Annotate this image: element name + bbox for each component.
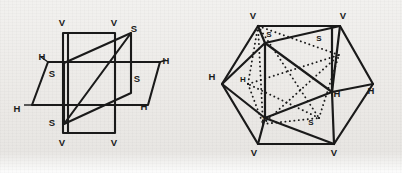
label-v-bottom-right: V bbox=[331, 147, 338, 158]
left-labels: V V S H H S S H H S V V bbox=[14, 17, 170, 148]
label-h-upper-left: H bbox=[39, 51, 46, 62]
label-v-top-left: V bbox=[250, 10, 257, 21]
label-s-lower-right: S bbox=[308, 118, 314, 127]
label-v-top-right: V bbox=[340, 10, 347, 21]
hexagon-and-visible-edges bbox=[222, 26, 373, 144]
label-v-bottom-left: V bbox=[251, 147, 258, 158]
right-labels: V V S S H H H H S S V V bbox=[209, 10, 375, 158]
label-s-left: S bbox=[49, 68, 55, 79]
figure-right-hexagonal-projection: V V S S H H H H S S V V bbox=[201, 0, 402, 173]
label-s-upper-left: S bbox=[266, 30, 272, 39]
label-h-inner-right: H bbox=[334, 88, 341, 99]
label-v-bottom-left: V bbox=[59, 137, 66, 148]
label-s-lower-left: S bbox=[262, 114, 268, 123]
label-h-lower-right: H bbox=[141, 101, 148, 112]
hidden-edges-dotted bbox=[248, 26, 339, 124]
label-v-bottom-right: V bbox=[111, 137, 118, 148]
outer-hexagon bbox=[222, 26, 373, 144]
label-h-inner-left: H bbox=[240, 75, 246, 84]
label-h-upper-right: H bbox=[163, 55, 170, 66]
label-v-top-right: V bbox=[111, 17, 118, 28]
label-s-bottom-left: S bbox=[49, 117, 55, 128]
left-diagram-svg: V V S H H S S H H S V V bbox=[0, 0, 201, 173]
label-h-far-left: H bbox=[209, 71, 216, 82]
plane-s-diagonal bbox=[64, 33, 131, 124]
label-s-top-right: S bbox=[131, 23, 137, 34]
label-v-top-left: V bbox=[59, 17, 66, 28]
plane-v-outline bbox=[63, 33, 115, 133]
right-diagram-svg: V V S S H H H H S S V V bbox=[201, 0, 402, 173]
label-s-right: S bbox=[134, 73, 140, 84]
figure-page: V V S H H S S H H S V V bbox=[0, 0, 402, 173]
label-s-upper-right: S bbox=[316, 34, 322, 43]
label-h-far-right: H bbox=[368, 85, 375, 96]
label-h-lower-left: H bbox=[14, 103, 21, 114]
figure-left-three-planes: V V S H H S S H H S V V bbox=[0, 0, 201, 173]
